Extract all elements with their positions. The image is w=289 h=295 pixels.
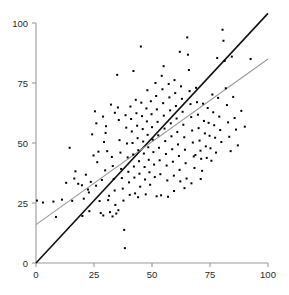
data-point: [166, 165, 168, 167]
data-point: [140, 46, 142, 48]
data-point: [176, 118, 178, 120]
data-point: [145, 193, 147, 195]
data-point: [193, 167, 195, 169]
data-point: [102, 116, 104, 118]
data-point: [211, 94, 213, 96]
data-point: [237, 144, 239, 146]
data-point: [77, 183, 79, 185]
data-point: [119, 139, 121, 141]
data-point: [161, 75, 163, 77]
data-point: [146, 120, 148, 122]
data-point: [135, 99, 137, 101]
data-point: [207, 107, 209, 109]
data-point: [182, 124, 184, 126]
data-point: [150, 100, 152, 102]
data-point: [228, 136, 230, 138]
data-point: [175, 105, 177, 107]
data-point: [140, 102, 142, 104]
data-point: [224, 60, 226, 62]
data-point: [166, 179, 168, 181]
data-point: [121, 177, 123, 179]
data-point: [128, 181, 130, 183]
data-point: [52, 201, 54, 203]
data-point: [191, 130, 193, 132]
data-point: [164, 140, 166, 142]
data-point: [154, 176, 156, 178]
data-point: [85, 174, 87, 176]
data-point: [132, 142, 134, 144]
data-point: [117, 209, 119, 211]
data-point: [114, 190, 116, 192]
data-point: [217, 97, 219, 99]
data-point: [153, 164, 155, 166]
data-point: [159, 159, 161, 161]
data-point: [131, 130, 133, 132]
data-point: [173, 190, 175, 192]
data-point: [126, 142, 128, 144]
data-point: [177, 143, 179, 145]
data-point: [157, 134, 159, 136]
data-point: [202, 103, 204, 105]
data-point: [125, 127, 127, 129]
data-point: [226, 104, 228, 106]
data-point: [148, 159, 150, 161]
data-point: [114, 204, 116, 206]
data-point: [178, 155, 180, 157]
data-point: [214, 137, 216, 139]
data-point: [215, 152, 217, 154]
data-point: [183, 187, 185, 189]
data-point: [73, 178, 75, 180]
data-point: [168, 83, 170, 85]
data-point: [216, 57, 218, 59]
data-point: [208, 122, 210, 124]
data-point: [218, 116, 220, 118]
data-point: [138, 160, 140, 162]
data-point: [123, 229, 125, 231]
data-point: [156, 108, 158, 110]
data-point: [129, 106, 131, 108]
data-point: [132, 154, 134, 156]
data-point: [142, 141, 144, 143]
data-point: [142, 128, 144, 130]
data-point: [130, 118, 132, 120]
data-point: [144, 166, 146, 168]
data-point: [113, 178, 115, 180]
scatter-plot-figure: 02550751000255075100: [0, 0, 289, 295]
data-point: [185, 162, 187, 164]
data-point: [190, 116, 192, 118]
data-point: [152, 139, 154, 141]
data-point: [138, 173, 140, 175]
x-tick-label-25: 25: [89, 269, 100, 280]
data-point: [184, 149, 186, 151]
data-point: [120, 168, 122, 170]
data-point: [209, 135, 211, 137]
data-point: [137, 149, 139, 151]
data-point: [168, 96, 170, 98]
x-tick-label-100: 100: [260, 269, 276, 280]
data-point: [117, 106, 119, 108]
data-point: [235, 129, 237, 131]
data-point: [179, 180, 181, 182]
data-point: [88, 191, 90, 193]
data-point: [106, 150, 108, 152]
data-point: [93, 154, 95, 156]
data-point: [94, 110, 96, 112]
data-point: [148, 171, 150, 173]
plot-canvas[interactable]: 02550751000255075100: [0, 0, 289, 295]
data-point: [186, 36, 188, 38]
data-point: [100, 212, 102, 214]
data-point: [147, 146, 149, 148]
data-point: [206, 157, 208, 159]
data-point: [102, 214, 104, 216]
data-point: [132, 70, 134, 72]
data-point: [125, 114, 127, 116]
data-point: [105, 125, 107, 127]
data-point: [143, 153, 145, 155]
data-point: [155, 95, 157, 97]
data-point: [112, 215, 114, 217]
data-point: [205, 145, 207, 147]
data-point: [161, 88, 163, 90]
data-point: [230, 150, 232, 152]
data-point: [145, 107, 147, 109]
data-point: [141, 115, 143, 117]
